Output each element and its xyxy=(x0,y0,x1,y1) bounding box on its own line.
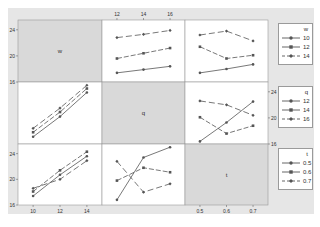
legend-title: t xyxy=(279,149,312,158)
circle-marker-icon xyxy=(142,68,145,71)
y-tick-left: 16 xyxy=(9,202,15,208)
circle-marker-icon xyxy=(32,195,35,198)
square-marker-icon xyxy=(169,171,172,174)
square-marker-icon xyxy=(59,169,62,172)
circle-marker-icon xyxy=(59,115,62,118)
legend-entry: 14 xyxy=(279,105,312,114)
circle-marker-icon xyxy=(225,68,228,71)
x-tick-bottom: 0.6 xyxy=(223,208,230,214)
circle-marker-icon xyxy=(86,91,89,94)
diamond-marker-icon xyxy=(282,116,300,122)
circle-marker-icon xyxy=(116,199,119,202)
y-tick-right: 24 xyxy=(271,89,277,95)
legend-t: t 0.5 0.6 0.7 xyxy=(278,148,313,190)
legend-entry: 0.5 xyxy=(279,158,312,167)
y-tick-right: 16 xyxy=(271,141,277,147)
square-marker-icon xyxy=(169,47,172,50)
circle-marker-icon xyxy=(252,100,255,103)
square-marker-icon xyxy=(199,45,202,48)
circle-marker-icon xyxy=(225,121,228,124)
square-marker-icon xyxy=(282,107,300,113)
square-marker-icon xyxy=(32,190,35,193)
x-tick-bottom: 0.7 xyxy=(250,208,257,214)
square-marker-icon xyxy=(199,116,202,119)
circle-marker-icon xyxy=(142,156,145,159)
square-marker-icon xyxy=(142,52,145,55)
legend-entry: 0.6 xyxy=(279,167,312,176)
circle-marker-icon xyxy=(86,155,89,158)
y-tick-left: 24 xyxy=(9,27,15,33)
circle-marker-icon xyxy=(199,72,202,75)
plot-panel xyxy=(102,144,185,205)
y-tick-right: 20 xyxy=(271,115,277,121)
legend-entry: 16 xyxy=(279,114,312,123)
x-tick-top: 14 xyxy=(141,11,147,17)
legend-title: w xyxy=(279,24,312,33)
x-tick-bottom: 0.5 xyxy=(196,208,203,214)
y-tick-left: 16 xyxy=(9,79,15,85)
square-marker-icon xyxy=(225,57,228,60)
diamond-marker-icon xyxy=(282,178,300,184)
circle-marker-icon xyxy=(32,136,35,139)
x-tick-bottom: 14 xyxy=(84,208,90,214)
plot-panel xyxy=(185,20,268,82)
square-marker-icon xyxy=(225,132,228,135)
interaction-plot-matrix: wqt1214161012140.50.60.72420162420162420… xyxy=(0,0,320,227)
circle-marker-icon xyxy=(199,140,202,143)
circle-marker-icon xyxy=(59,174,62,177)
square-marker-icon xyxy=(252,54,255,57)
circle-marker-icon xyxy=(282,35,300,41)
x-tick-top: 16 xyxy=(167,11,173,17)
square-marker-icon xyxy=(86,150,89,153)
circle-marker-icon xyxy=(116,72,119,75)
diamond-marker-icon xyxy=(282,53,300,59)
x-tick-bottom: 10 xyxy=(30,208,36,214)
diagonal-label: w xyxy=(57,48,63,54)
square-marker-icon xyxy=(59,111,62,114)
square-marker-icon xyxy=(116,179,119,182)
circle-marker-icon xyxy=(252,63,255,66)
circle-marker-icon xyxy=(282,98,300,104)
circle-marker-icon xyxy=(169,65,172,68)
legend-w: w 10 12 14 xyxy=(278,23,313,65)
circle-marker-icon xyxy=(282,160,300,166)
square-marker-icon xyxy=(116,57,119,60)
legend-entry: 12 xyxy=(279,42,312,51)
square-marker-icon xyxy=(32,131,35,134)
square-marker-icon xyxy=(282,169,300,175)
y-tick-left: 20 xyxy=(9,176,15,182)
square-marker-icon xyxy=(86,87,89,90)
square-marker-icon xyxy=(142,166,145,169)
y-tick-left: 24 xyxy=(9,151,15,157)
x-tick-top: 12 xyxy=(114,11,120,17)
square-marker-icon xyxy=(252,124,255,127)
legend-entry: 14 xyxy=(279,51,312,60)
plot-panel xyxy=(102,20,185,82)
legend-entry: 12 xyxy=(279,96,312,105)
square-marker-icon xyxy=(282,44,300,50)
circle-marker-icon xyxy=(169,146,172,149)
legend-title: q xyxy=(279,87,312,96)
legend-entry: 10 xyxy=(279,33,312,42)
x-tick-bottom: 12 xyxy=(57,208,63,214)
diagonal-label: q xyxy=(142,110,145,116)
y-tick-left: 20 xyxy=(9,53,15,59)
legend-entry: 0.7 xyxy=(279,176,312,185)
legend-q: q 12 14 16 xyxy=(278,86,313,128)
